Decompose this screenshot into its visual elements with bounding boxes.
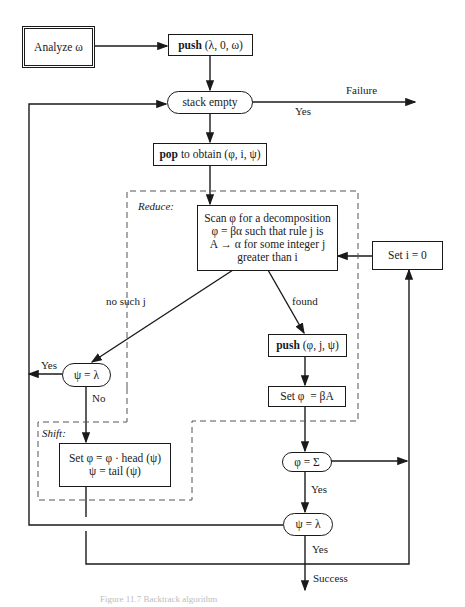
push-found-args: (φ, j, ψ)	[300, 339, 339, 351]
stack-empty-decision: stack empty	[167, 91, 253, 114]
stack-empty-label: stack empty	[182, 96, 237, 109]
analyze-start-node: Analyze ω	[22, 26, 95, 68]
shift-line-2: ψ = tail (ψ)	[89, 465, 141, 478]
failure-label: Failure	[346, 84, 377, 96]
yes-left-label: Yes	[41, 359, 57, 371]
scan-line-2: φ = βα such that rule j is	[211, 225, 323, 238]
scan-line-1: Scan φ for a decomposition	[204, 212, 331, 225]
set-i-zero-node: Set i = 0	[372, 241, 443, 270]
psi-lambda-bottom-label: ψ = λ	[295, 518, 320, 531]
scan-line-4: greater than i	[237, 251, 298, 264]
push-args: (λ, 0, ω)	[202, 39, 243, 51]
pop-node: pop to obtain (φ, i, ψ)	[153, 143, 267, 166]
yes-bottom-label: Yes	[312, 543, 328, 555]
push-initial-node: push (λ, 0, ω)	[168, 34, 253, 56]
shift-region-label: Shift:	[42, 427, 66, 439]
push-keyword: push	[178, 39, 202, 51]
phi-sigma-label: φ = Σ	[294, 456, 320, 469]
yes-failure-label: Yes	[295, 105, 311, 117]
phi-sigma-decision: φ = Σ	[282, 452, 332, 472]
set-phi-beta-node: Set φ = βA	[268, 386, 346, 407]
psi-lambda-left-decision: ψ = λ	[62, 363, 111, 387]
found-label: found	[292, 295, 318, 307]
shift-node: Set φ = φ · head (ψ) ψ = tail (ψ)	[59, 443, 171, 487]
success-label: Success	[313, 572, 348, 584]
no-such-j-label: no such j	[106, 295, 146, 307]
set-i-label: Set i = 0	[388, 249, 427, 262]
no-left-label: No	[92, 392, 105, 404]
psi-lambda-bottom-decision: ψ = λ	[283, 513, 333, 536]
push-found-keyword: push	[276, 339, 300, 351]
pop-rest: to obtain (φ, i, ψ)	[178, 148, 261, 160]
scan-node: Scan φ for a decomposition φ = βα such t…	[197, 205, 338, 271]
pop-keyword: pop	[159, 148, 178, 160]
reduce-region-label: Reduce:	[138, 200, 174, 212]
yes-sigma-label: Yes	[311, 483, 327, 495]
shift-line-1: Set φ = φ · head (ψ)	[69, 452, 161, 465]
set-phi-beta-label: Set φ = βA	[280, 390, 333, 403]
analyze-label: Analyze ω	[34, 41, 83, 54]
push-found-node: push (φ, j, ψ)	[268, 334, 347, 357]
figure-caption: Figure 11.7 Backtrack algorithm	[100, 594, 217, 604]
psi-lambda-left-label: ψ = λ	[74, 369, 99, 382]
scan-line-3: A → α for some integer j	[210, 238, 325, 251]
